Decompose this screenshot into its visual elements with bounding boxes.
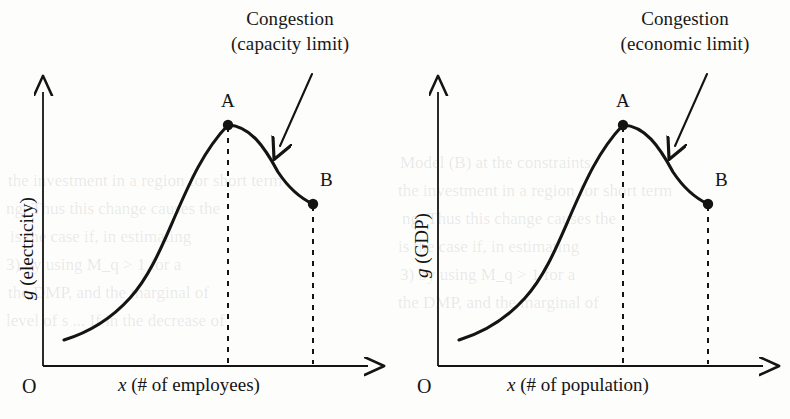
- annotation-arrow: [280, 74, 312, 146]
- curve-g-of-x: [459, 125, 708, 340]
- origin-label: O: [22, 376, 36, 396]
- x-axis-label-var: x: [507, 374, 520, 395]
- chart-graphic-right: [395, 0, 790, 419]
- y-axis-label-rest: (GDP): [411, 213, 432, 264]
- x-axis-label-rest: (# of employees): [131, 374, 260, 395]
- annotation-line-1: Congestion: [190, 6, 390, 31]
- y-axis-label-rest: (electricity): [16, 197, 37, 286]
- chart-panel-right: Congestion (economic limit) A B O x (# o…: [395, 0, 790, 419]
- point-marker-a: [618, 120, 628, 130]
- annotation-line-2: (capacity limit): [190, 31, 390, 56]
- x-axis-label-rest: (# of population): [520, 374, 649, 395]
- point-label-a: A: [221, 91, 235, 110]
- annotation-congestion: Congestion (capacity limit): [190, 6, 390, 56]
- y-axis-label: g (GDP): [411, 213, 433, 278]
- figure-container: the investment in a region for short ter…: [0, 0, 790, 419]
- y-axis-label: g (electricity): [16, 197, 38, 300]
- point-marker-b: [308, 199, 318, 209]
- x-axis-label-var: x: [118, 374, 131, 395]
- chart-graphic-left: [0, 0, 395, 419]
- x-axis-label: x (# of employees): [118, 374, 260, 396]
- curve-g-of-x: [64, 125, 313, 340]
- point-marker-a: [223, 120, 233, 130]
- point-label-b: B: [320, 170, 333, 189]
- point-label-b: B: [715, 170, 728, 189]
- point-marker-b: [703, 199, 713, 209]
- annotation-line-2: (economic limit): [580, 31, 790, 56]
- annotation-congestion: Congestion (economic limit): [580, 6, 790, 56]
- y-axis-label-var: g: [411, 264, 432, 278]
- annotation-arrow: [675, 74, 707, 146]
- annotation-line-1: Congestion: [580, 6, 790, 31]
- y-axis-label-var: g: [16, 286, 37, 300]
- x-axis-label: x (# of population): [507, 374, 649, 396]
- origin-label: O: [417, 376, 431, 396]
- point-label-a: A: [616, 91, 630, 110]
- chart-panel-left: Congestion (capacity limit) A B O x (# o…: [0, 0, 395, 419]
